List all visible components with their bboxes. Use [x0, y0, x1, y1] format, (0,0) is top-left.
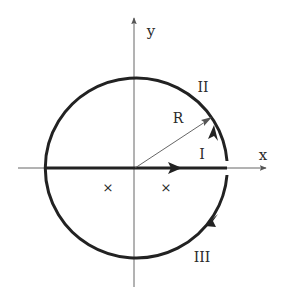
segment-ii-label: II: [197, 79, 208, 95]
segment-i-label: I: [199, 146, 205, 162]
marker-right: ×: [161, 180, 172, 195]
y-axis-label: y: [146, 22, 156, 40]
marker-left: ×: [103, 180, 114, 195]
arc-iii-arrow-icon: [205, 214, 218, 227]
svg-text:×: ×: [103, 180, 114, 195]
radius-label: R: [173, 110, 184, 126]
x-axis-label: x: [259, 146, 268, 164]
segment-i-line: [45, 162, 227, 174]
segment-iii-label: III: [194, 249, 211, 265]
contour-diagram: × × x y R II I III: [0, 0, 283, 301]
svg-text:×: ×: [161, 180, 172, 195]
